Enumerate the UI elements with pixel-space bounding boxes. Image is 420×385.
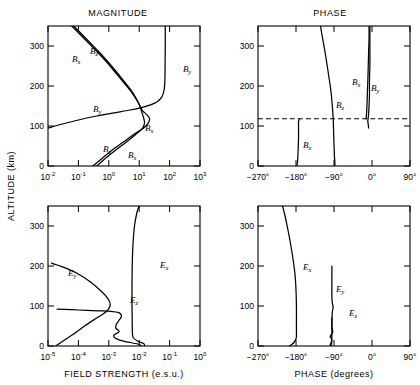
x-tick-90: 90° <box>404 172 417 182</box>
curve-label-ey-magnitude: Ey <box>67 268 77 279</box>
curve-label-by-magnitude: By <box>93 104 102 115</box>
svg-text:10-2: 10-2 <box>132 351 147 362</box>
y-tick-200-phase: 200 <box>240 81 254 91</box>
curve-bz <box>320 26 334 166</box>
x-tick-90-e: 90° <box>404 352 417 362</box>
figure-root: MAGNITUDE 0 100 200 300 <box>0 0 420 385</box>
curves-b-phase <box>258 26 410 166</box>
y-axis-ticks-e-magnitude: 0 100 200 300 <box>30 221 200 351</box>
curve-ex <box>282 206 296 346</box>
curve-label-ey-phase: Ey <box>335 284 345 295</box>
curve-bx <box>72 26 150 166</box>
curve-label-bz-magnitude-2: Bz <box>103 144 112 155</box>
svg-text:101: 101 <box>133 171 146 182</box>
y-tick-0-e: 0 <box>39 341 44 351</box>
curve-label-by-phase: By <box>371 83 380 94</box>
y-tick-300: 300 <box>30 41 44 51</box>
y-tick-300-e: 300 <box>30 221 44 231</box>
svg-text:10-1: 10-1 <box>71 171 86 182</box>
panel-b-phase: PHASE 0 100 200 300 <box>240 8 417 182</box>
panel-e-magnitude: 0 100 200 300 10-5 10-4 <box>30 206 207 379</box>
svg-text:10-3: 10-3 <box>101 351 116 362</box>
x-tick-labels-b-magnitude: 10-2 10-1 100 101 102 103 <box>41 171 207 182</box>
curves-e-magnitude <box>51 206 144 346</box>
y-tick-0-ep: 0 <box>249 341 254 351</box>
x-axis-ticks-e-phase <box>258 206 410 346</box>
curves-e-phase <box>282 206 333 346</box>
curve-label-bx-magnitude-2: Bx <box>145 123 154 134</box>
curve-bx <box>297 120 300 166</box>
curve-label-ex-magnitude: Ex <box>159 260 169 271</box>
x-tick-neg270: −270° <box>247 172 270 182</box>
panel-e-phase: 0 100 200 300 −270° −180° −90° <box>240 206 417 379</box>
y-axis-title-altitude: ALTITUDE (km) <box>6 151 16 221</box>
y-tick-100-ep: 100 <box>240 301 254 311</box>
x-tick-neg180: −180° <box>285 172 308 182</box>
svg-text:10-1: 10-1 <box>162 351 177 362</box>
y-tick-100-e: 100 <box>30 301 44 311</box>
x-axis-title-field-strength: FIELD STRENGTH (e.s.u.) <box>64 369 184 379</box>
x-tick-0-e: 0° <box>368 352 376 362</box>
x-tick-neg90: −90° <box>325 172 343 182</box>
curve-by <box>48 26 165 128</box>
x-tick-neg90-e: −90° <box>325 352 343 362</box>
svg-text:100: 100 <box>194 351 207 362</box>
y-axis-ticks-e-phase: 0 100 200 300 <box>240 221 410 351</box>
y-tick-0: 0 <box>39 161 44 171</box>
x-tick-labels-e-phase: −270° −180° −90° 0° 90° <box>247 352 417 362</box>
y-axis-ticks-b-phase: 0 100 200 300 <box>240 41 410 171</box>
y-tick-300-ep: 300 <box>240 221 254 231</box>
panel-title-phase: PHASE <box>313 8 347 18</box>
y-tick-200: 200 <box>30 81 44 91</box>
curve-ex <box>132 206 145 346</box>
curve-label-bz-phase: Bz <box>336 100 345 111</box>
x-tick-0: 0° <box>368 172 376 182</box>
plot-frame-e-phase <box>258 206 410 346</box>
curve-label-ez-phase: Ez <box>348 308 358 319</box>
x-axis-title-phase: PHASE (degrees) <box>294 369 373 379</box>
curve-label-bz-magnitude: Bz <box>90 46 99 57</box>
y-tick-200-e: 200 <box>30 261 44 271</box>
y-tick-200-ep: 200 <box>240 261 254 271</box>
svg-text:10-2: 10-2 <box>41 171 56 182</box>
curve-label-ez-magnitude: Ez <box>129 295 139 306</box>
curve-label-bx-magnitude: Bx <box>72 54 81 65</box>
curve-label-bx-phase-2: Bx <box>352 77 361 88</box>
svg-text:102: 102 <box>163 171 176 182</box>
curve-label-bx-magnitude-3: Bx <box>128 150 137 161</box>
x-tick-neg270-e: −270° <box>247 352 270 362</box>
panel-b-magnitude: MAGNITUDE 0 100 200 300 <box>30 8 207 182</box>
panel-title-magnitude: MAGNITUDE <box>88 8 147 18</box>
figure-svg: MAGNITUDE 0 100 200 300 <box>0 0 420 385</box>
x-axis-ticks-b-magnitude <box>48 26 200 166</box>
x-tick-labels-e-magnitude: 10-5 10-4 10-3 10-2 10-1 100 <box>41 351 207 362</box>
plot-frame-b-magnitude <box>48 26 200 166</box>
svg-text:100: 100 <box>102 171 115 182</box>
y-tick-0-phase: 0 <box>249 161 254 171</box>
curve-label-ex-phase: Ex <box>302 262 312 273</box>
curve-ey <box>51 263 110 346</box>
y-tick-100: 100 <box>30 121 44 131</box>
y-axis-ticks-b-magnitude: 0 100 200 300 <box>30 41 54 171</box>
curve-label-by-magnitude-2: By <box>183 64 192 75</box>
svg-text:10-5: 10-5 <box>41 351 56 362</box>
x-tick-labels-b-phase: −270° −180° −90° 0° 90° <box>247 172 417 182</box>
svg-text:103: 103 <box>194 171 207 182</box>
x-tick-neg180-e: −180° <box>285 352 308 362</box>
y-tick-100-phase: 100 <box>240 121 254 131</box>
y-tick-300-phase: 300 <box>240 41 254 51</box>
curve-ez <box>57 309 141 346</box>
svg-text:10-4: 10-4 <box>71 351 86 362</box>
curve-label-bx-phase: Bx <box>303 140 312 151</box>
